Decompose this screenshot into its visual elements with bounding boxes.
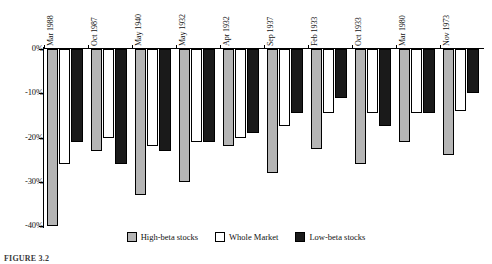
bar-low xyxy=(159,49,171,151)
x-tick-label: Apr 1932 xyxy=(222,16,231,46)
bar-group xyxy=(135,49,177,226)
bar-group xyxy=(355,49,397,226)
bar-group xyxy=(179,49,221,226)
bar-low xyxy=(335,49,347,98)
x-tick-label: Nov 1973 xyxy=(442,15,451,46)
x-tick-label: Feb 1933 xyxy=(310,17,319,46)
x-label-slot: Mar 1988 xyxy=(46,0,56,46)
x-label-slot: Mar 1980 xyxy=(398,0,408,46)
x-label-slot: May 1932 xyxy=(178,0,188,46)
whole-market-swatch xyxy=(215,232,225,242)
bar-market xyxy=(279,49,291,126)
x-tick-label: Mar 1988 xyxy=(46,15,55,46)
legend-label: Whole Market xyxy=(229,232,278,242)
bar-market xyxy=(191,49,203,142)
legend-label: High-beta stocks xyxy=(141,232,198,242)
legend-item: Whole Market xyxy=(215,232,278,242)
bar-low xyxy=(115,49,127,164)
x-label-slot: Oct 1933 xyxy=(354,0,364,46)
plot-area xyxy=(44,49,484,226)
bar-high xyxy=(399,49,411,142)
y-tick-label: -30% xyxy=(9,177,43,186)
bar-market xyxy=(411,49,423,113)
bar-group xyxy=(399,49,441,226)
x-label-slot: Apr 1932 xyxy=(222,0,232,46)
x-tick-label: May 1940 xyxy=(134,14,143,46)
bar-market xyxy=(323,49,335,113)
bar-high xyxy=(355,49,367,164)
x-label-slot: Nov 1973 xyxy=(442,0,452,46)
bar-low xyxy=(379,49,391,126)
bar-high xyxy=(91,49,103,151)
low-beta-swatch xyxy=(295,232,305,242)
bar-low xyxy=(203,49,215,142)
bar-high xyxy=(223,49,235,146)
bar-group xyxy=(47,49,89,226)
bar-high xyxy=(179,49,191,182)
bar-market xyxy=(367,49,379,113)
x-label-slot: Sep 1937 xyxy=(266,0,276,46)
y-tick-label: 0% xyxy=(9,44,43,53)
bar-low xyxy=(247,49,259,133)
bar-high xyxy=(47,49,59,226)
legend-item: High-beta stocks xyxy=(127,232,198,242)
x-tick-label: Mar 1980 xyxy=(398,15,407,46)
bar-market xyxy=(103,49,115,138)
bar-market xyxy=(147,49,159,146)
x-tick-label: Oct 1933 xyxy=(354,17,363,46)
bar-group xyxy=(91,49,133,226)
chart-legend: High-beta stocksWhole MarketLow-beta sto… xyxy=(0,232,492,242)
y-axis-ticks: 0%-10%-20%-30%-40% xyxy=(0,0,43,264)
x-label-slot: Feb 1933 xyxy=(310,0,320,46)
y-tick-label: -20% xyxy=(9,133,43,142)
bar-high xyxy=(443,49,455,155)
bar-group xyxy=(443,49,485,226)
y-tick-label: -40% xyxy=(9,221,43,230)
y-tick-label: -10% xyxy=(9,88,43,97)
figure-caption: FIGURE 3.2 xyxy=(4,254,49,263)
x-label-slot: Oct 1987 xyxy=(90,0,100,46)
bar-low xyxy=(71,49,83,142)
legend-item: Low-beta stocks xyxy=(295,232,365,242)
bar-group xyxy=(267,49,309,226)
figure-container: 0%-10%-20%-30%-40% Mar 1988Oct 1987May 1… xyxy=(0,0,492,264)
bar-market xyxy=(59,49,71,164)
bar-market xyxy=(235,49,247,138)
bar-high xyxy=(311,49,323,149)
bar-group xyxy=(223,49,265,226)
x-tick-label: Sep 1937 xyxy=(266,17,275,46)
bar-market xyxy=(455,49,467,111)
bar-group xyxy=(311,49,353,226)
bar-low xyxy=(291,49,303,113)
high-beta-swatch xyxy=(127,232,137,242)
x-tick-label: May 1932 xyxy=(178,14,187,46)
bar-low xyxy=(423,49,435,113)
legend-label: Low-beta stocks xyxy=(309,232,365,242)
x-label-slot: May 1940 xyxy=(134,0,144,46)
bar-high xyxy=(135,49,147,195)
bar-low xyxy=(467,49,479,93)
bar-high xyxy=(267,49,279,173)
x-tick-label: Oct 1987 xyxy=(90,17,99,46)
